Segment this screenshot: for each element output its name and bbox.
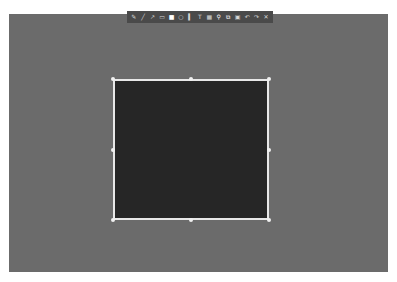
resize-handle-bottom-left[interactable] (111, 218, 115, 222)
arrow-tool-button[interactable]: ↗ (149, 13, 157, 21)
pixelate-tool-button[interactable]: ▦ (205, 13, 213, 21)
marker-tool-button[interactable]: ▍ (186, 13, 194, 21)
resize-handle-bottom-center[interactable] (189, 218, 193, 222)
resize-handle-top-center[interactable] (189, 77, 193, 81)
line-tool-button[interactable]: ╱ (139, 13, 147, 21)
resize-handle-bottom-right[interactable] (267, 218, 271, 222)
selection-tool-button[interactable]: ▭ (158, 13, 166, 21)
copy-tool-button[interactable]: ⧉ (224, 13, 232, 21)
capture-selection-area[interactable] (113, 79, 269, 220)
circle-tool-button[interactable]: ○ (177, 13, 185, 21)
pencil-tool-button[interactable]: ✎ (130, 13, 138, 21)
save-tool-button[interactable]: ▣ (234, 13, 242, 21)
rectangle-tool-button[interactable]: ■ (168, 13, 176, 21)
undo-tool-button[interactable]: ↶ (243, 13, 251, 21)
resize-handle-middle-left[interactable] (111, 148, 115, 152)
text-tool-button[interactable]: T (196, 13, 204, 21)
exit-tool-button[interactable]: ✕ (262, 13, 270, 21)
pin-tool-button[interactable]: ⚲ (215, 13, 223, 21)
capture-toolbar: ✎ ╱ ↗ ▭ ■ ○ ▍ T ▦ ⚲ ⧉ ▣ ↶ ↷ ✕ (127, 11, 273, 23)
resize-handle-top-left[interactable] (111, 77, 115, 81)
redo-tool-button[interactable]: ↷ (253, 13, 261, 21)
resize-handle-middle-right[interactable] (267, 148, 271, 152)
resize-handle-top-right[interactable] (267, 77, 271, 81)
